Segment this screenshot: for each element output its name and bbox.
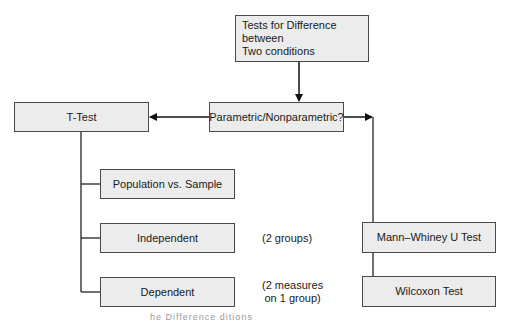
caption-fragment: he Difference ditions	[150, 312, 253, 320]
population-vs-sample-box: Population vs. Sample	[100, 169, 235, 199]
population-vs-sample-label: Population vs. Sample	[113, 178, 222, 191]
dependent-note-line-2: on 1 group)	[262, 292, 323, 305]
mann-whitney-label: Mann–Whiney U Test	[377, 231, 481, 244]
t-test-box: T-Test	[14, 102, 149, 132]
wilcoxon-box: Wilcoxon Test	[362, 276, 496, 307]
wilcoxon-label: Wilcoxon Test	[395, 285, 463, 298]
dependent-box: Dependent	[100, 277, 235, 307]
mann-whitney-box: Mann–Whiney U Test	[362, 222, 496, 253]
dependent-note-line-1: (2 measures	[262, 279, 323, 292]
title-box: Tests for Difference between Two conditi…	[235, 15, 369, 62]
dependent-note: (2 measures on 1 group)	[262, 279, 323, 305]
decision-label: Parametric/Nonparametric?	[209, 111, 344, 124]
decision-box: Parametric/Nonparametric?	[209, 102, 344, 132]
title-line-1: Tests for Difference between	[242, 19, 368, 45]
t-test-label: T-Test	[67, 111, 97, 124]
independent-box: Independent	[100, 223, 235, 253]
title-line-2: Two conditions	[242, 45, 368, 58]
independent-note: (2 groups)	[262, 232, 312, 245]
dependent-label: Dependent	[141, 286, 195, 299]
independent-label: Independent	[137, 232, 198, 245]
